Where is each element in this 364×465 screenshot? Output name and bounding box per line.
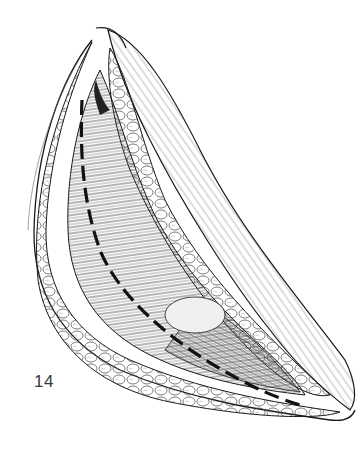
surgical-illustration: 14	[0, 0, 364, 465]
figure-number: 14	[34, 372, 54, 392]
underlying-structure	[165, 297, 225, 333]
incision-drawing	[0, 0, 364, 465]
